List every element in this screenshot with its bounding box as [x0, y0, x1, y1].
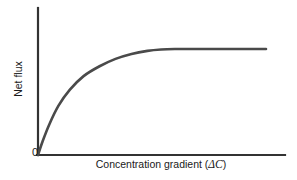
saturation-curve-figure: 0 Net flux Concentration gradient (ΔC): [0, 0, 297, 180]
axes-group: [37, 8, 285, 155]
x-axis-title: Concentration gradient (ΔC): [41, 158, 281, 170]
x-axis-title-main: Concentration gradient (: [96, 158, 209, 170]
y-axis-title: Net flux: [12, 43, 24, 115]
delta-concentration-symbol: ΔC: [208, 158, 222, 170]
axis-origin-label: 0: [26, 146, 38, 158]
x-axis-title-close: ): [223, 158, 227, 170]
plot-area: [0, 0, 297, 180]
saturation-curve-path: [38, 49, 266, 155]
data-curve-group: [38, 49, 266, 155]
